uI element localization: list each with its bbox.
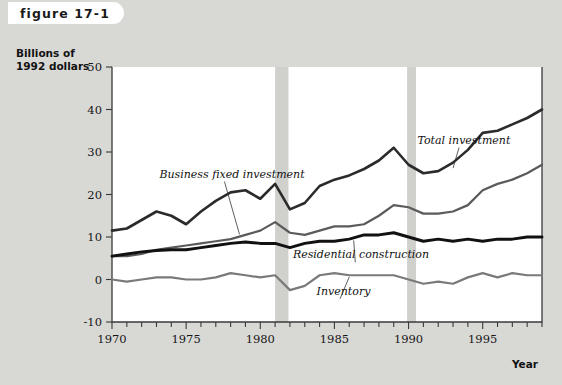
- x-tick-label: 1990: [394, 332, 423, 346]
- y-tick-label: 0: [95, 273, 102, 287]
- y-tick-label: 30: [87, 145, 102, 159]
- annotation-residential-construction: Residential construction: [292, 248, 429, 261]
- chart-plot-area: 50403020100-10197019751980198519901995Bu…: [0, 0, 562, 385]
- x-tick-label: 1970: [97, 332, 126, 346]
- x-tick-label: 1975: [171, 332, 200, 346]
- x-tick-label: 1995: [468, 332, 497, 346]
- y-tick-label: 20: [87, 188, 102, 202]
- figure-number-label: figure 17-1: [20, 6, 110, 21]
- y-tick-label: 50: [87, 60, 102, 74]
- x-axis-title: Year: [511, 358, 539, 370]
- annotation-business-fixed-investment: Business fixed investment: [158, 168, 305, 181]
- annotation-total-investment: Total investment: [417, 134, 511, 147]
- y-tick-label: -10: [83, 315, 102, 329]
- x-tick-label: 1985: [320, 332, 349, 346]
- y-tick-label: 40: [87, 103, 102, 117]
- figure-panel: figure 17-1 Billions of 1992 dollars 504…: [0, 0, 562, 385]
- figure-number-tab: figure 17-1: [8, 2, 124, 24]
- chart-svg: 50403020100-10197019751980198519901995Bu…: [0, 0, 562, 385]
- x-tick-label: 1980: [246, 332, 275, 346]
- recession-band-2: [407, 67, 416, 322]
- y-tick-label: 10: [87, 230, 102, 244]
